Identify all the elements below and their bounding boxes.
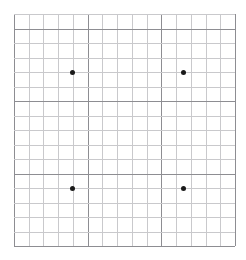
gridline-horizontal xyxy=(14,145,235,146)
gridline-horizontal xyxy=(14,203,235,204)
gridline-horizontal xyxy=(14,58,235,59)
data-point xyxy=(70,186,75,191)
gridline-horizontal xyxy=(14,14,235,15)
gridline-horizontal xyxy=(14,116,235,117)
gridline-horizontal xyxy=(14,130,235,131)
gridline-horizontal xyxy=(14,101,235,102)
gridline-horizontal xyxy=(14,159,235,160)
data-point xyxy=(181,70,186,75)
gridline-horizontal xyxy=(14,232,235,233)
data-point xyxy=(181,186,186,191)
gridline-horizontal xyxy=(14,72,235,73)
data-point xyxy=(70,70,75,75)
grid-panel xyxy=(14,14,235,246)
gridline-horizontal xyxy=(14,87,235,88)
gridline-horizontal xyxy=(14,217,235,218)
gridline-horizontal xyxy=(14,43,235,44)
gridline-vertical xyxy=(235,14,236,246)
gridline-horizontal xyxy=(14,188,235,189)
gridline-horizontal xyxy=(14,174,235,175)
chart-canvas xyxy=(0,0,246,260)
gridline-horizontal xyxy=(14,246,235,247)
gridline-horizontal xyxy=(14,29,235,30)
